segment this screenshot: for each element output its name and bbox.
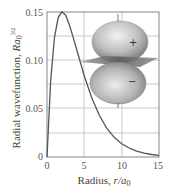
lower-lobe-sign: − [128, 76, 136, 87]
y-tick-0.05: 0.05 [26, 103, 44, 114]
x-tick-0: 0 [45, 160, 50, 171]
y-tick-0.15: 0.15 [26, 7, 44, 18]
upper-lobe-sign: + [129, 37, 137, 48]
p-orbital-inset: + − [80, 14, 158, 108]
x-axis-label: Radius, r/a0 [78, 174, 131, 188]
y-tick-0.10: 0.10 [26, 55, 44, 66]
x-tick-10: 10 [117, 160, 127, 171]
y-tick-labels: 0.15 0.10 0.05 0 [26, 7, 44, 162]
orbital-lower-lobe [90, 62, 146, 104]
x-tick-labels: 0 5 10 15 [45, 160, 164, 171]
x-tick-15: 15 [153, 160, 163, 171]
y-axis-label: Radial wavefunction, Ra03/2 [10, 28, 24, 149]
x-tick-5: 5 [82, 160, 87, 171]
radial-wavefunction-chart: + − 0.15 0.10 0.05 0 0 5 10 15 Radius, r… [0, 0, 172, 192]
y-tick-0: 0 [38, 151, 43, 162]
